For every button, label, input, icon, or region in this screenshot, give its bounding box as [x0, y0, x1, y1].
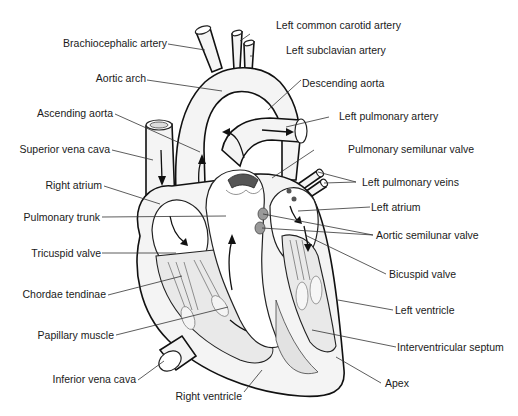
label-ascending-aorta: Ascending aorta [37, 107, 113, 119]
label-left-pulmonary-artery: Left pulmonary artery [339, 110, 439, 122]
heart-diagram: Brachiocephalic artery Left common carot… [0, 0, 518, 416]
label-pulmonary-trunk: Pulmonary trunk [24, 211, 101, 223]
label-interventricular-septum: Interventricular septum [397, 341, 504, 353]
label-aortic-semilunar-valve: Aortic semilunar valve [376, 229, 479, 241]
label-descending-aorta: Descending aorta [302, 77, 384, 89]
left-common-carotid-shape [232, 32, 242, 70]
label-left-subclavian-artery: Left subclavian artery [286, 44, 387, 56]
label-right-atrium: Right atrium [45, 179, 102, 191]
label-left-pulmonary-veins: Left pulmonary veins [362, 176, 459, 188]
label-apex: Apex [385, 377, 410, 389]
heart-illustration: Brachiocephalic artery Left common carot… [0, 0, 518, 416]
label-papillary-muscle: Papillary muscle [38, 329, 115, 341]
label-right-ventricle: Right ventricle [175, 390, 242, 402]
label-left-common-carotid-artery: Left common carotid artery [276, 19, 402, 31]
label-superior-vena-cava: Superior vena cava [20, 143, 111, 155]
label-inferior-vena-cava: Inferior vena cava [53, 373, 137, 385]
label-left-atrium: Left atrium [371, 201, 421, 213]
label-pulmonary-semilunar-valve: Pulmonary semilunar valve [348, 143, 474, 155]
label-left-ventricle: Left ventricle [395, 304, 455, 316]
label-chordae-tendinae: Chordae tendinae [23, 288, 107, 300]
label-bicuspid-valve: Bicuspid valve [389, 268, 456, 280]
label-brachiocephalic-artery: Brachiocephalic artery [63, 37, 168, 49]
label-tricuspid-valve: Tricuspid valve [31, 247, 101, 259]
label-aortic-arch: Aortic arch [96, 72, 146, 84]
